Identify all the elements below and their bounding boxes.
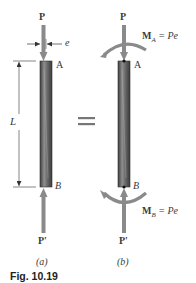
length-dimension — [13, 61, 36, 187]
equals-sign — [78, 117, 95, 125]
panel-a — [13, 25, 62, 233]
load-arrow-bottom-a — [40, 188, 48, 233]
moment-label-bottom: MB = Pe — [142, 206, 178, 219]
eccentricity-label: e — [65, 38, 69, 48]
sublabel-a: (a) — [36, 257, 48, 267]
load-arrow-top-a — [40, 25, 48, 61]
load-label-top-a: P — [39, 12, 45, 22]
load-label-top-b: P — [120, 12, 126, 22]
load-label-bottom-b: P' — [119, 236, 128, 246]
sublabel-b: (b) — [117, 257, 129, 267]
panel-b — [100, 25, 146, 233]
point-label-a-top: A — [56, 60, 63, 70]
point-label-a-bottom: B — [55, 181, 61, 191]
figure-caption: Fig. 10.19 — [10, 270, 58, 282]
point-label-b-top: A — [134, 60, 141, 70]
load-arrow-bottom-b — [120, 188, 128, 233]
point-label-b-bottom: B — [133, 181, 139, 191]
load-label-bottom-a: P' — [38, 236, 47, 246]
moment-label-top: MA = Pe — [142, 31, 178, 44]
length-label: L — [10, 116, 16, 127]
